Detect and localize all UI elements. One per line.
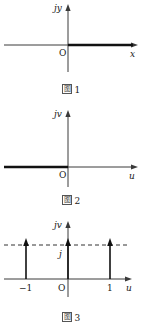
figure-caption-number: 2 xyxy=(74,196,80,206)
origin-label: O xyxy=(59,170,66,180)
figure-caption-glyph-icon: 图 xyxy=(62,84,72,94)
tick-label-minus-one: −1 xyxy=(19,283,32,293)
figure-3-plot: −1 1 O u jv j xyxy=(0,215,143,310)
figure-3: −1 1 O u jv j 图3 xyxy=(0,215,143,334)
figure-3-caption: 图3 xyxy=(0,312,143,323)
horizontal-axis-arrowhead xyxy=(131,164,138,169)
figure-caption-number: 3 xyxy=(74,313,80,323)
vertical-axis-arrowhead xyxy=(65,110,70,117)
vertical-axis-arrowhead xyxy=(65,221,70,228)
figure-caption-glyph-icon: 图 xyxy=(62,195,72,205)
figure-sheet: O x jy 图1 O u jv xyxy=(0,0,143,334)
vertical-axis-label: jv xyxy=(52,109,62,119)
horizontal-axis-label: u xyxy=(129,171,135,181)
figure-1-caption: 图1 xyxy=(0,84,143,95)
figure-1-plot: O x jy xyxy=(0,0,143,82)
vertical-axis-label: jy xyxy=(52,3,63,13)
vertical-axis-label: jv xyxy=(52,220,62,230)
figure-2-plot: O u jv xyxy=(0,105,143,193)
figure-2-caption: 图2 xyxy=(0,195,143,206)
impulse-arrow-head-zero xyxy=(65,238,71,246)
figure-1: O x jy 图1 xyxy=(0,0,143,105)
horizontal-axis-label: x xyxy=(130,49,135,59)
horizontal-axis-label: u xyxy=(126,283,132,293)
figure-caption-glyph-icon: 图 xyxy=(62,312,72,322)
origin-label: O xyxy=(59,48,66,58)
origin-label: O xyxy=(58,283,65,293)
level-label-j: j xyxy=(57,249,62,259)
horizontal-axis-arrowhead xyxy=(125,276,132,281)
impulse-arrow-head-minus1 xyxy=(23,238,29,246)
figure-caption-number: 1 xyxy=(74,85,80,95)
vertical-axis-arrowhead xyxy=(65,4,70,11)
tick-label-one: 1 xyxy=(107,283,113,293)
impulse-arrow-head-plus1 xyxy=(107,238,113,246)
figure-2: O u jv 图2 xyxy=(0,105,143,215)
